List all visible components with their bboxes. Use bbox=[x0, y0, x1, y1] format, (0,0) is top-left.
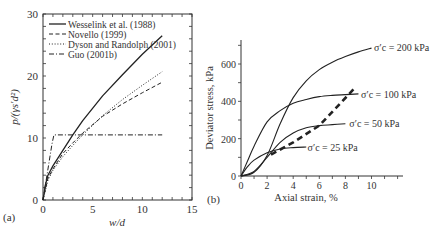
chart-a-x-tick: 0 bbox=[40, 203, 46, 215]
chart-a-y-tick: 10 bbox=[27, 132, 39, 144]
chart-b: 02468100200400600 σ′c = 200 kPaσ′c = 100… bbox=[204, 40, 430, 206]
chart-a-series-line bbox=[43, 135, 162, 200]
chart-a-y-tick: 20 bbox=[27, 70, 39, 82]
chart-a-x-tick: 15 bbox=[187, 203, 199, 215]
chart-a-series-line bbox=[43, 82, 162, 200]
chart-b-curve-label: σ′c = 200 kPa bbox=[374, 42, 430, 53]
chart-b-x-tick: 8 bbox=[343, 180, 348, 191]
chart-b-y-tick: 600 bbox=[221, 59, 236, 70]
chart-b-series-line bbox=[241, 48, 372, 176]
chart-b-curve-label: σ′c = 50 kPa bbox=[349, 118, 400, 129]
chart-b-x-tick: 2 bbox=[265, 180, 270, 191]
chart-b-x-tick: 0 bbox=[239, 180, 244, 191]
chart-a-y-tick: 0 bbox=[33, 194, 39, 206]
chart-b-y-label: Deviator stress, kPa bbox=[204, 66, 215, 150]
chart-b-x-tick: 6 bbox=[317, 180, 322, 191]
chart-a-x-label: w/d bbox=[109, 216, 125, 228]
chart-a: 0510150102030 Wesselink et al. (1988)Nov… bbox=[3, 8, 198, 228]
chart-b-curve-label: σ′c = 25 kPa bbox=[308, 142, 359, 153]
chart-b-x-tick: 10 bbox=[367, 180, 377, 191]
chart-b-panel-label: (b) bbox=[207, 193, 220, 206]
chart-a-panel-label: (a) bbox=[3, 211, 16, 224]
chart-b-series-line bbox=[241, 94, 358, 176]
chart-a-legend-entry: Guo (2001b) bbox=[68, 50, 117, 61]
chart-b-annotations: σ′c = 200 kPaσ′c = 100 kPaσ′c = 50 kPaσ′… bbox=[308, 42, 430, 153]
chart-a-y-label: p/(γs′d²) bbox=[8, 89, 21, 126]
chart-b-x-tick: 4 bbox=[291, 180, 296, 191]
chart-a-x-tick: 10 bbox=[137, 203, 149, 215]
chart-b-y-tick: 200 bbox=[221, 134, 236, 145]
chart-b-series-line bbox=[241, 147, 306, 176]
chart-b-y-tick: 0 bbox=[231, 171, 236, 182]
chart-a-x-tick: 5 bbox=[90, 203, 96, 215]
chart-a-series-line bbox=[43, 36, 162, 200]
chart-a-y-tick: 30 bbox=[27, 8, 39, 20]
chart-b-curve-label: σ′c = 100 kPa bbox=[361, 89, 417, 100]
chart-b-y-tick: 400 bbox=[221, 96, 236, 107]
chart-a-lines bbox=[43, 36, 162, 200]
chart-a-series-line bbox=[43, 72, 162, 200]
figure: 0510150102030 Wesselink et al. (1988)Nov… bbox=[0, 0, 441, 239]
chart-b-lines bbox=[241, 48, 372, 176]
chart-a-legend: Wesselink et al. (1988)Novello (1999)Dys… bbox=[49, 20, 176, 61]
chart-b-x-label: Axial strain, % bbox=[274, 192, 338, 203]
